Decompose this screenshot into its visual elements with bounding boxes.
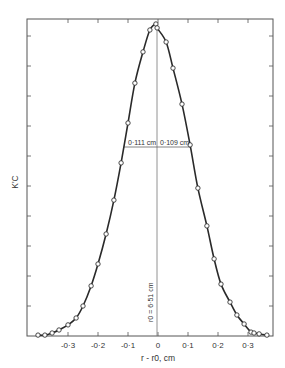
- data-point: [57, 328, 61, 332]
- half-width-left-label: 0·111 cm: [128, 139, 156, 146]
- data-point: [141, 50, 145, 54]
- data-point: [235, 313, 239, 317]
- x-tick-label: -0·3: [61, 341, 76, 350]
- data-point: [265, 333, 269, 337]
- data-point: [242, 322, 246, 326]
- data-point: [155, 26, 159, 30]
- data-point: [148, 28, 152, 32]
- data-point: [219, 282, 223, 286]
- data-point: [96, 262, 100, 266]
- data-point: [119, 161, 123, 165]
- data-point: [180, 102, 184, 106]
- data-point: [81, 304, 85, 308]
- y-ticks: [27, 36, 273, 306]
- y-axis-title: K'C: [10, 175, 20, 188]
- data-point: [164, 40, 168, 44]
- data-point: [228, 300, 232, 304]
- x-tick-label: 0·2: [212, 341, 224, 350]
- data-point: [196, 186, 200, 190]
- data-point: [43, 333, 47, 337]
- data-point: [133, 81, 137, 85]
- data-point: [89, 284, 93, 288]
- x-tick-label: 0·3: [242, 341, 254, 350]
- x-tick-label: -0·2: [91, 341, 106, 350]
- x-tick-label: -0·1: [121, 341, 136, 350]
- data-point: [126, 121, 130, 125]
- data-point: [66, 323, 70, 327]
- data-point: [112, 198, 116, 202]
- data-point: [212, 257, 216, 261]
- half-width-right-label: 0·109 cm: [160, 139, 189, 146]
- data-point: [171, 66, 175, 70]
- data-point: [205, 224, 209, 228]
- x-tick-label: 0: [156, 341, 161, 350]
- data-point: [104, 232, 108, 236]
- data-point: [50, 331, 54, 335]
- x-axis-title: r - r0, cm: [141, 353, 175, 363]
- center-label: r0 = 6·51 cm: [147, 282, 154, 322]
- data-point: [74, 316, 78, 320]
- x-tick-label: 0·1: [182, 341, 194, 350]
- data-point: [36, 333, 40, 337]
- data-point: [252, 331, 256, 335]
- data-point: [257, 332, 261, 336]
- chart: 0·111 cm 0·109 cm r0 = 6·51 cm -0·3 -0·2…: [0, 0, 285, 368]
- x-ticks: [68, 19, 248, 336]
